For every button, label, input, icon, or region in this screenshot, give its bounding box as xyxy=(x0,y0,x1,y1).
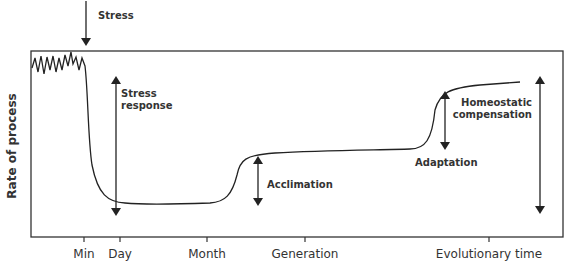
stress-response-label-2: response xyxy=(121,100,173,111)
diagram-canvas: Stress Stress response Acclimation Adapt… xyxy=(0,0,571,275)
x-ticks xyxy=(84,237,489,242)
tick-label-evolutionary-time: Evolutionary time xyxy=(436,247,542,261)
y-axis-label: Rate of process xyxy=(5,93,19,198)
plot-frame xyxy=(31,51,563,237)
acclimation-label: Acclimation xyxy=(267,179,333,190)
homeostatic-label-2: compensation xyxy=(453,109,532,120)
tick-label-month: Month xyxy=(188,247,226,261)
homeostatic-label-1: Homeostatic xyxy=(461,97,532,108)
stress-response-label-1: Stress xyxy=(121,88,157,99)
tick-label-min: Min xyxy=(73,247,94,261)
stress-label: Stress xyxy=(98,10,134,21)
tick-label-day: Day xyxy=(108,247,132,261)
adaptation-label: Adaptation xyxy=(415,157,478,168)
tick-label-generation: Generation xyxy=(272,247,339,261)
